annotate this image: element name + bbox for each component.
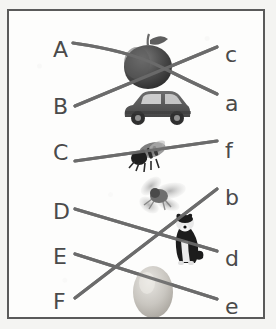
- left-label-F[interactable]: F: [53, 291, 66, 313]
- right-label-e[interactable]: e: [225, 296, 239, 318]
- right-label-a[interactable]: a: [225, 93, 238, 115]
- left-label-B[interactable]: B: [53, 96, 68, 118]
- left-label-D[interactable]: D: [53, 201, 70, 223]
- right-label-d[interactable]: d: [225, 248, 239, 270]
- worksheet-frame: A B C D E F c a f b d e: [7, 9, 265, 319]
- left-label-A[interactable]: A: [53, 39, 68, 61]
- fly-picture: [136, 173, 187, 217]
- left-label-E[interactable]: E: [53, 246, 67, 268]
- car-picture: [125, 91, 191, 125]
- right-label-f[interactable]: f: [225, 140, 233, 162]
- right-label-b[interactable]: b: [225, 187, 239, 209]
- left-label-C[interactable]: C: [53, 142, 68, 164]
- worksheet-page: A B C D E F c a f b d e: [0, 0, 276, 329]
- bee-picture: [129, 138, 168, 172]
- right-label-c[interactable]: c: [225, 44, 237, 66]
